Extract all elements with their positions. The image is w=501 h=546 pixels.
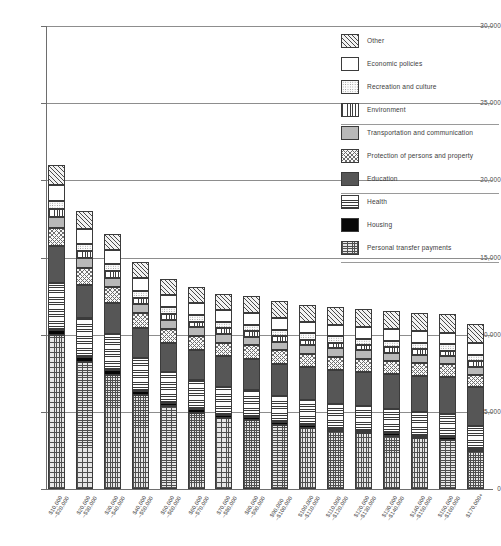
bar-segment <box>299 322 316 334</box>
legend-item-personal-transfer-payments[interactable]: Personal transfer payments <box>341 236 499 259</box>
bar-segment <box>355 309 372 327</box>
legend-label: Other <box>367 37 384 44</box>
x-axis-label: $70,000–$80,000 <box>215 492 238 519</box>
bar-segment <box>243 313 260 325</box>
bar-segment <box>48 335 65 489</box>
bar-1[interactable] <box>48 165 65 489</box>
bar-4[interactable] <box>132 262 149 489</box>
bar-10[interactable] <box>299 305 316 489</box>
bar-segment <box>48 209 65 216</box>
legend-label: Economic policies <box>367 60 422 67</box>
bar-segment <box>243 390 260 417</box>
bar-14[interactable] <box>411 313 428 489</box>
bar-segment <box>243 359 260 391</box>
bar-segment <box>467 367 484 375</box>
legend-label: Health <box>367 198 387 205</box>
legend-swatch-icon <box>341 80 359 94</box>
bar-segment <box>76 229 93 244</box>
x-axis-label: $60,000–$70,000 <box>187 492 210 519</box>
bar-11[interactable] <box>327 307 344 489</box>
bar-13[interactable] <box>383 311 400 489</box>
legend-item-environment[interactable]: Environment <box>341 98 499 121</box>
bar-8[interactable] <box>243 296 260 489</box>
bar-segment <box>160 279 177 294</box>
bar-segment <box>299 367 316 400</box>
x-axis-label: $110,000–$120,000 <box>325 492 350 522</box>
bar-segment <box>48 228 65 246</box>
bar-segment <box>76 244 93 252</box>
bar-segment <box>467 343 484 355</box>
bar-segment <box>327 307 344 324</box>
legend-label: Protection of persons and property <box>367 152 473 159</box>
bar-segment <box>48 217 65 228</box>
bar-segment <box>215 356 232 387</box>
bar-segment <box>160 406 177 489</box>
bar-segment <box>299 400 316 425</box>
y-axis-tick-mark <box>41 103 46 104</box>
bar-6[interactable] <box>188 287 205 489</box>
bar-segment <box>188 350 205 380</box>
bar-7[interactable] <box>215 294 232 489</box>
legend-item-protection-of-persons-and-property[interactable]: Protection of persons and property <box>341 144 499 167</box>
bar-segment <box>160 295 177 307</box>
bar-segment <box>48 165 65 185</box>
bar-segment <box>271 364 288 396</box>
bar-segment <box>104 375 121 489</box>
bar-segment <box>271 301 288 318</box>
bar-segment <box>327 348 344 356</box>
x-axis-label: $50,000–$60,000 <box>159 492 182 519</box>
legend-swatch-icon <box>341 218 359 232</box>
bar-16[interactable] <box>467 324 484 489</box>
bar-5[interactable] <box>160 279 177 489</box>
bar-segment <box>439 314 456 333</box>
bar-segment <box>383 353 400 361</box>
bar-segment <box>104 287 121 302</box>
bar-segment <box>104 234 121 251</box>
x-axis-label: $40,000–$50,000 <box>131 492 154 519</box>
legend-item-other[interactable]: Other <box>341 29 499 52</box>
bar-segment <box>383 329 400 341</box>
bar-segment <box>48 185 65 201</box>
legend-swatch-icon <box>341 149 359 163</box>
bar-segment <box>243 345 260 358</box>
legend-item-recreation-and-culture[interactable]: Recreation and culture <box>341 75 499 98</box>
bar-segment <box>411 355 428 363</box>
legend-item-housing[interactable]: Housing <box>341 213 499 236</box>
bar-segment <box>327 325 344 337</box>
x-axis-label: $20,000–$30,000 <box>75 492 98 519</box>
bar-segment <box>383 409 400 433</box>
bar-15[interactable] <box>439 314 456 489</box>
bar-segment <box>439 364 456 377</box>
bar-segment <box>355 406 372 431</box>
legend-gridline <box>341 124 499 125</box>
bar-2[interactable] <box>76 211 93 489</box>
bar-segment <box>299 354 316 367</box>
bar-segment <box>48 246 65 284</box>
legend-label: Housing <box>367 221 392 228</box>
bar-segment <box>132 313 149 328</box>
bar-segment <box>411 363 428 376</box>
bar-segment <box>160 372 177 403</box>
chart-legend: OtherEconomic policiesRecreation and cul… <box>341 29 499 259</box>
legend-swatch-icon <box>341 172 359 186</box>
bar-segment <box>215 418 232 489</box>
bar-segment <box>355 433 372 489</box>
legend-item-education[interactable]: Education <box>341 167 499 190</box>
y-axis-tick-mark <box>41 335 46 336</box>
bar-segment <box>243 337 260 345</box>
bar-segment <box>132 328 149 358</box>
bar-3[interactable] <box>104 234 121 489</box>
bar-segment <box>132 304 149 313</box>
bar-9[interactable] <box>271 301 288 489</box>
x-axis-label: $170,000+ <box>464 492 484 519</box>
y-axis-tick-mark <box>41 412 46 413</box>
bar-12[interactable] <box>355 309 372 489</box>
bar-segment <box>160 343 177 372</box>
legend-item-economic-policies[interactable]: Economic policies <box>341 52 499 75</box>
bar-segment <box>383 361 400 374</box>
x-axis-label: $130,000–$140,000 <box>381 492 406 522</box>
x-axis-label: $120,000–$130,000 <box>353 492 378 522</box>
bar-segment <box>439 440 456 489</box>
x-axis-label: $140,000–$150,000 <box>408 492 433 522</box>
bar-segment <box>355 372 372 407</box>
